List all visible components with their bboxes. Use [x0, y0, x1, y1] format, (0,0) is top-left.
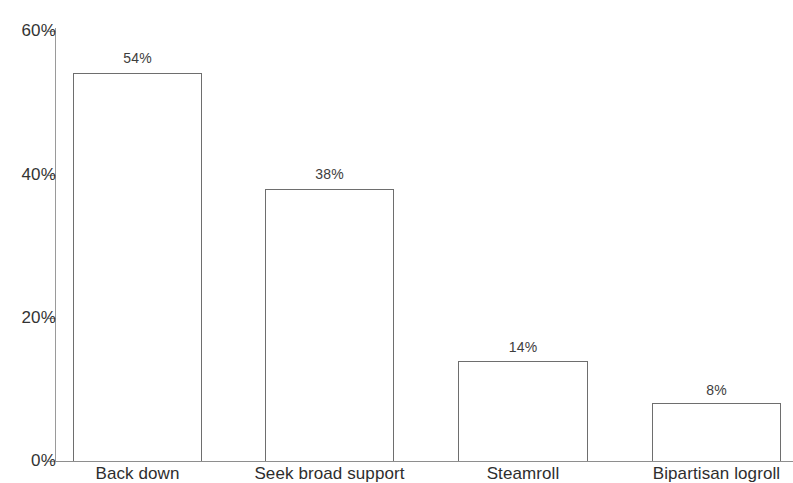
bar-value-label: 38% [265, 167, 394, 181]
bar-seek-broad-support [265, 189, 394, 462]
bars-layer: 54% Back down 38% Seek broad support 14%… [0, 0, 793, 483]
x-axis-category-label: Seek broad support [250, 464, 409, 483]
bar-value-label: 8% [652, 383, 781, 397]
x-axis-category-label: Steamroll [448, 464, 598, 483]
bar-back-down [73, 73, 202, 462]
bar-value-label: 54% [73, 51, 202, 65]
x-axis-line [55, 461, 793, 462]
x-axis-category-label: Back down [63, 464, 212, 483]
bar-bipartisan-logroll [652, 403, 781, 462]
bar-steamroll [458, 361, 588, 462]
bar-value-label: 14% [458, 340, 588, 354]
bar-chart: 0% 20% 40% 60% 54% Back down 38% Seek br… [0, 0, 793, 483]
x-axis-category-label: Bipartisan logroll [641, 464, 792, 483]
